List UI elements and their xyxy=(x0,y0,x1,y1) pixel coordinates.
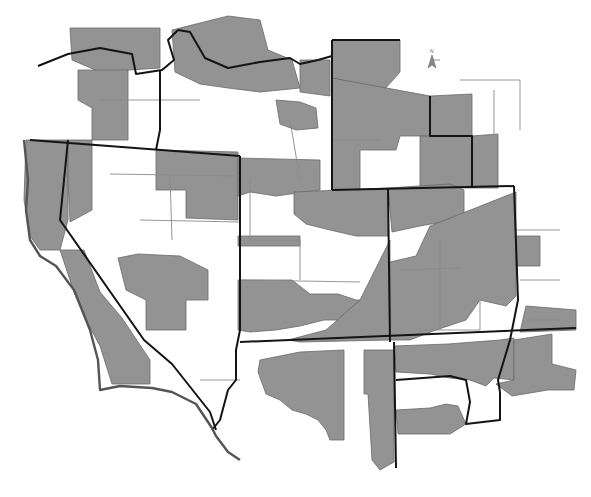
shaded-region-nevada-center xyxy=(118,254,208,330)
shaded-region-montana-east xyxy=(430,94,472,136)
north-arrow-icon: N xyxy=(428,48,436,68)
shaded-region-kansas-strip xyxy=(516,236,540,266)
choropleth-map: N xyxy=(0,0,591,497)
border-idaho-west-border xyxy=(156,70,160,150)
shaded-region-dakota-east xyxy=(472,134,498,188)
shaded-region-oregon-central xyxy=(78,70,128,140)
shaded-region-idaho-panhandle-east xyxy=(300,60,330,96)
shaded-region-montana-central xyxy=(332,78,430,190)
shaded-region-arizona-west xyxy=(258,350,344,440)
shaded-region-utah-mid-left xyxy=(238,236,300,246)
shaded-region-idaho-north xyxy=(172,16,300,92)
county-line xyxy=(140,220,240,222)
shaded-region-nevada-north-east-block xyxy=(156,150,238,220)
shaded-region-california-north-inland xyxy=(68,140,92,222)
shaded-region-wyoming-east xyxy=(420,136,472,188)
shaded-region-nm-south xyxy=(396,404,466,434)
shaded-region-utah-northeast xyxy=(294,188,388,236)
shaded-region-idaho-central-east xyxy=(276,100,318,130)
north-arrow-label: N xyxy=(430,48,434,54)
shaded-region-arizona-east xyxy=(364,350,394,470)
shaded-region-california-north-coast xyxy=(24,140,68,250)
